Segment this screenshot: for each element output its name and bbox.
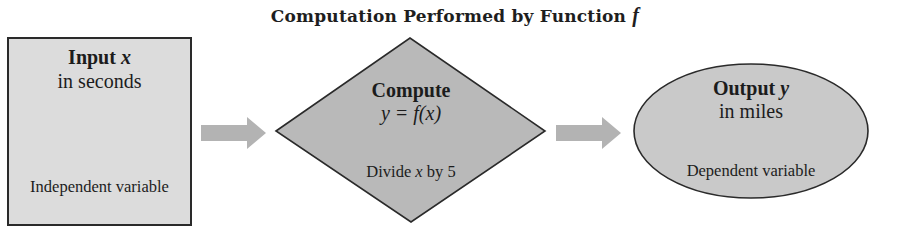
compute-rule-variable: x [415,162,422,181]
arrow-right-icon [556,117,621,149]
output-heading-text: Output [713,77,780,99]
input-variable: x [121,46,131,68]
compute-rule-suffix: by 5 [423,162,456,181]
output-variable: y [780,77,789,99]
input-heading-text: Input [68,46,121,68]
compute-heading: Compute [330,79,492,101]
output-role: Dependent variable [660,162,842,180]
input-role: Independent variable [8,178,191,196]
output-heading: Output y [660,77,842,99]
compute-diamond [276,38,545,222]
compute-formula: y = f(x) [330,102,492,124]
output-unit: in miles [660,100,842,122]
compute-rule: Divide x by 5 [330,163,492,181]
arrow-right-icon [201,117,266,149]
input-unit: in seconds [8,70,191,92]
input-heading: Input x [8,46,191,68]
compute-rule-prefix: Divide [366,162,415,181]
